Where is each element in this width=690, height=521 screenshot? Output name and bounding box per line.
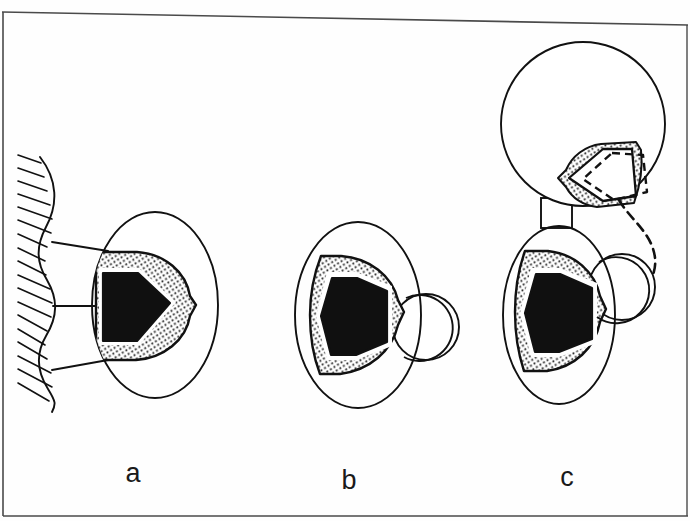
inclusion-b bbox=[316, 272, 392, 360]
figure-root: a b bbox=[0, 0, 690, 521]
panel-label-c: c bbox=[560, 462, 574, 492]
panel-label-b: b bbox=[341, 465, 356, 495]
lower-inclusion-pentagon-c bbox=[525, 274, 592, 352]
satellite-vesicle-b bbox=[393, 294, 459, 360]
cell-diagram-svg: a b bbox=[0, 0, 690, 521]
lower-inclusion-c bbox=[520, 268, 597, 357]
inclusion-pentagon-b bbox=[321, 278, 387, 355]
panel-label-a: a bbox=[125, 458, 141, 488]
